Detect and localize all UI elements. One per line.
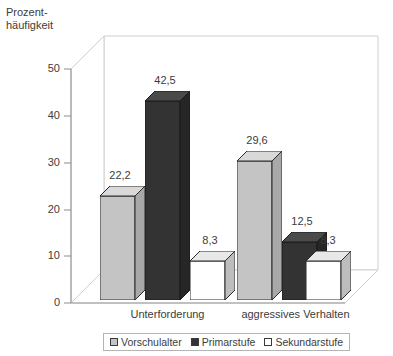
legend-label-vorschulalter: Vorschulalter [121,336,182,348]
legend-swatch-sekundarstufe [264,338,272,346]
x-category-aggressives-verhalten: aggressives Verhalten [228,308,363,320]
bar-vorschulalter-aggressives-verhalten[interactable] [237,151,282,300]
bar-3d-shape [190,251,235,300]
bar-sekundarstufe-aggressives-verhalten[interactable] [306,251,351,300]
chart-legend: Vorschulalter Primarstufe Sekundarstufe [103,333,350,351]
bar-3d-shape [306,251,351,300]
bar-vorschulalter-unterforderung[interactable] [100,186,145,300]
bar-label-8-3-a: 8,3 [190,234,230,246]
chart-figure: Prozent-häufigkeit 50 40 30 20 10 0 22,2 [0,0,393,356]
bar-3d-shape [100,186,145,300]
legend-item-sekundarstufe[interactable]: Sekundarstufe [264,336,343,348]
y-tick-50: 50 [34,63,60,74]
bar-3d-shape [145,91,190,300]
legend-swatch-vorschulalter [110,338,118,346]
y-tick-40: 40 [34,110,60,121]
bar-3d-shape [237,151,282,300]
y-tick-20: 20 [34,204,60,215]
bar-label-8-3-b: 8,3 [308,234,348,246]
bar-label-12-5: 12,5 [282,215,322,227]
bar-label-22-2: 22,2 [100,169,140,181]
legend-item-vorschulalter[interactable]: Vorschulalter [110,336,182,348]
legend-item-primarstufe[interactable]: Primarstufe [191,336,256,348]
legend-label-primarstufe: Primarstufe [202,336,256,348]
legend-swatch-primarstufe [191,338,199,346]
y-tick-0: 0 [34,297,60,308]
bar-primarstufe-unterforderung[interactable] [145,91,190,300]
bar-label-29-6: 29,6 [237,134,277,146]
y-tick-10: 10 [34,250,60,261]
bar-sekundarstufe-unterforderung[interactable] [190,251,235,300]
bar-label-42-5: 42,5 [145,74,185,86]
legend-label-sekundarstufe: Sekundarstufe [275,336,343,348]
x-category-unterforderung: Unterforderung [100,308,235,320]
y-tick-30: 30 [34,157,60,168]
